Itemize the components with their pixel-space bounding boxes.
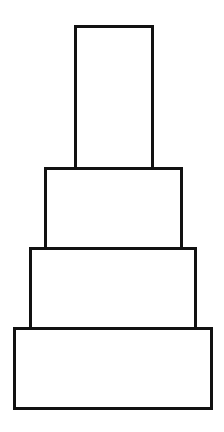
tier-second [44, 167, 183, 250]
tier-third [29, 247, 197, 330]
tier-bottom [13, 327, 213, 410]
tier-top [74, 25, 154, 170]
